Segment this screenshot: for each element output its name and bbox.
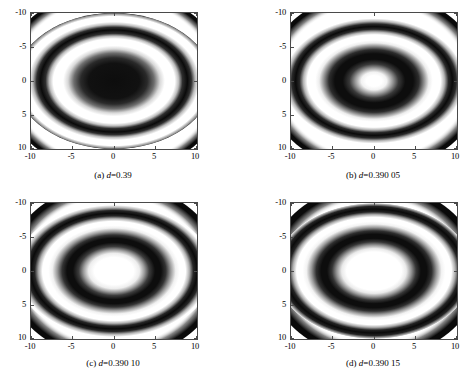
- xtick-d-0: [291, 336, 292, 339]
- caption-eq-d: =0.390 15: [363, 358, 400, 368]
- ytick-label-c-3: 5: [0, 300, 26, 309]
- ytick-a-2: [31, 81, 34, 82]
- xtick-label-a-2: 0: [96, 152, 130, 161]
- ytick-d-1: [291, 237, 294, 238]
- xtick-c-3: [155, 336, 156, 339]
- ytick-label-b-0: -10: [260, 8, 286, 17]
- caption-eq-a: =0.39: [111, 170, 132, 180]
- ytick-label-c-0: -10: [0, 198, 26, 207]
- caption-eq-c: =0.390 10: [103, 358, 140, 368]
- ytick-label-c-1: -5: [0, 232, 26, 241]
- xtick-c-2-top: [114, 203, 115, 206]
- plot-area-a: [30, 12, 198, 150]
- caption-label-c: (c): [86, 358, 96, 368]
- ytick-label-b-2: 0: [260, 76, 286, 85]
- ytick-label-b-1: -5: [260, 42, 286, 51]
- xtick-d-2-top: [374, 203, 375, 206]
- panel-c: -10 -5 0 5 10 -10 -5 0 5 10 (c) d=0.390 …: [0, 190, 237, 376]
- panel-caption-a: (a) d=0.39: [30, 171, 196, 180]
- xtick-b-0-top: [291, 13, 292, 16]
- xtick-label-b-2: 0: [356, 152, 390, 161]
- xtick-label-b-4: 10: [438, 152, 472, 161]
- xtick-label-c-1: -5: [54, 342, 88, 351]
- xtick-a-2-top: [114, 13, 115, 16]
- xtick-b-2: [374, 146, 375, 149]
- ytick-label-d-4: 10: [260, 333, 286, 342]
- xtick-d-1: [332, 336, 333, 339]
- panel-caption-d: (d) d=0.390 15: [290, 359, 456, 368]
- ring-pattern-d: [291, 203, 457, 339]
- xtick-label-d-2: 0: [356, 342, 390, 351]
- xtick-label-c-3: 5: [137, 342, 171, 351]
- caption-label-a: (a): [94, 170, 104, 180]
- ring-pattern-c: [31, 203, 197, 339]
- caption-label-b: (b): [346, 170, 357, 180]
- ytick-c-2-right: [194, 271, 197, 272]
- plot-area-b: [290, 12, 458, 150]
- xtick-d-4: [456, 336, 457, 339]
- xtick-d-0-top: [291, 203, 292, 206]
- ytick-c-2: [31, 271, 34, 272]
- ytick-d-2: [291, 271, 294, 272]
- ytick-d-3: [291, 305, 294, 306]
- xtick-d-4-top: [456, 203, 457, 206]
- xtick-label-a-0: -10: [13, 152, 47, 161]
- ytick-label-a-2: 0: [0, 76, 26, 85]
- xtick-label-d-1: -5: [314, 342, 348, 351]
- xtick-b-4: [456, 146, 457, 149]
- xtick-label-a-4: 10: [178, 152, 212, 161]
- plot-area-c: [30, 202, 198, 340]
- xtick-label-a-1: -5: [54, 152, 88, 161]
- xtick-label-b-3: 5: [397, 152, 431, 161]
- xtick-a-0-top: [31, 13, 32, 16]
- ytick-a-3: [31, 115, 34, 116]
- xtick-c-0-top: [31, 203, 32, 206]
- xtick-b-1: [332, 146, 333, 149]
- xtick-b-4-top: [456, 13, 457, 16]
- xtick-c-4: [196, 336, 197, 339]
- ytick-b-2: [291, 81, 294, 82]
- ytick-b-3: [291, 115, 294, 116]
- xtick-label-c-4: 10: [178, 342, 212, 351]
- xtick-a-1: [72, 146, 73, 149]
- xtick-label-c-2: 0: [96, 342, 130, 351]
- panel-a: -10 -5 0 5 10 -10 -5 0 5 10 (a) d=0.39: [0, 0, 237, 188]
- xtick-c-0: [31, 336, 32, 339]
- ytick-a-1: [31, 47, 34, 48]
- ytick-label-d-2: 0: [260, 266, 286, 275]
- ytick-label-a-3: 5: [0, 110, 26, 119]
- xtick-a-4: [196, 146, 197, 149]
- xtick-b-2-top: [374, 13, 375, 16]
- xtick-b-0: [291, 146, 292, 149]
- panel-caption-c: (c) d=0.390 10: [30, 359, 196, 368]
- figure-container: -10 -5 0 5 10 -10 -5 0 5 10 (a) d=0.39: [0, 0, 475, 376]
- ytick-b-2-right: [454, 81, 457, 82]
- ytick-c-3: [31, 305, 34, 306]
- ytick-label-b-4: 10: [260, 143, 286, 152]
- xtick-a-3: [155, 146, 156, 149]
- ytick-label-c-4: 10: [0, 333, 26, 342]
- xtick-label-b-0: -10: [273, 152, 307, 161]
- panel-d: -10 -5 0 5 10 -10 -5 0 5 10 (d) d=0.390 …: [235, 190, 475, 376]
- ring-pattern-b: [291, 13, 457, 149]
- xtick-label-d-0: -10: [273, 342, 307, 351]
- xtick-c-4-top: [196, 203, 197, 206]
- xtick-d-3: [415, 336, 416, 339]
- xtick-label-d-3: 5: [397, 342, 431, 351]
- xtick-label-d-4: 10: [438, 342, 472, 351]
- xtick-label-c-0: -10: [13, 342, 47, 351]
- plot-area-d: [290, 202, 458, 340]
- xtick-a-2: [114, 146, 115, 149]
- caption-eq-b: =0.390 05: [363, 170, 400, 180]
- ring-pattern-a: [31, 13, 197, 149]
- ytick-label-d-0: -10: [260, 198, 286, 207]
- panel-b: -10 -5 0 5 10 -10 -5 0 5 10 (b) d=0.390 …: [235, 0, 475, 188]
- xtick-b-3: [415, 146, 416, 149]
- ytick-label-d-3: 5: [260, 300, 286, 309]
- ytick-label-b-3: 5: [260, 110, 286, 119]
- xtick-c-2: [114, 336, 115, 339]
- xtick-d-2: [374, 336, 375, 339]
- xtick-a-0: [31, 146, 32, 149]
- panel-caption-b: (b) d=0.390 05: [290, 171, 456, 180]
- ytick-c-1: [31, 237, 34, 238]
